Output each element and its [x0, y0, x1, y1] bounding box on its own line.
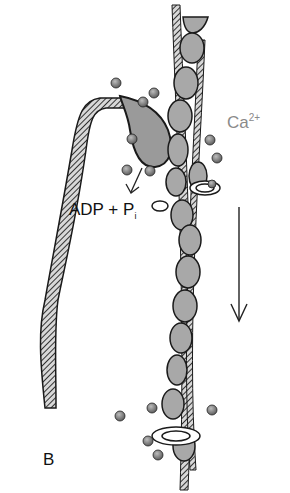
diagram-canvas	[0, 0, 290, 493]
calcium-charge: 2+	[249, 112, 260, 123]
panel-label: B	[43, 450, 54, 470]
phosphate-subscript: i	[134, 211, 136, 221]
myosin-tail	[40, 98, 128, 408]
calcium-label: Ca2+	[227, 112, 260, 133]
adp-pi-label: ADP + Pi	[69, 200, 136, 221]
calcium-symbol: Ca	[227, 113, 249, 132]
adp-text: ADP + P	[69, 200, 134, 219]
direction-arrow	[231, 207, 247, 321]
